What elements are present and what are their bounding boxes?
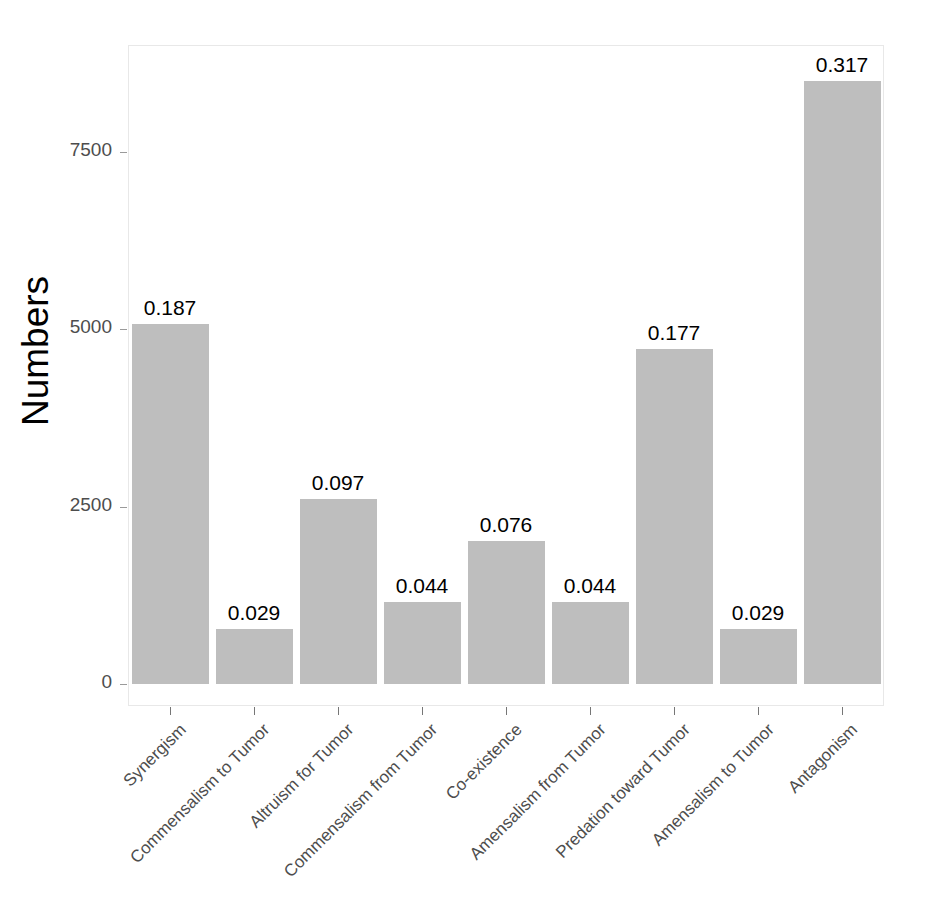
bar — [804, 81, 881, 684]
bar-value-label: 0.076 — [480, 513, 533, 537]
bar-value-label: 0.044 — [396, 574, 449, 598]
y-axis-tick-mark — [120, 152, 127, 153]
y-axis-tick-mark — [120, 507, 127, 508]
x-axis-tick-label: Antagonism — [785, 720, 863, 798]
bar — [132, 324, 209, 684]
bar-value-label: 0.097 — [312, 471, 365, 495]
x-axis-tick-label: Amensalism from Tumor — [466, 720, 610, 864]
bar-value-label: 0.029 — [228, 601, 281, 625]
bar-value-label: 0.029 — [732, 601, 785, 625]
x-axis-tick-label: Co-existence — [442, 720, 526, 804]
x-axis-tick-mark — [338, 707, 339, 715]
y-axis-tick-mark — [120, 329, 127, 330]
y-axis-tick-label: 5000 — [70, 316, 112, 338]
x-axis-tick-mark — [422, 707, 423, 715]
bar — [636, 349, 713, 684]
x-axis-tick-label: Commensalism to Tumor — [126, 720, 274, 868]
bars-layer: 0.1870.0290.0970.0440.0760.0440.1770.029… — [128, 45, 884, 706]
bar — [720, 629, 797, 684]
x-axis-tick-label: Synergism — [119, 720, 190, 791]
x-axis-tick-mark — [506, 707, 507, 715]
bar-value-label: 0.317 — [816, 53, 869, 77]
x-axis-tick-mark — [758, 707, 759, 715]
x-axis-tick-mark — [170, 707, 171, 715]
bar — [216, 629, 293, 684]
y-axis-tick-label: 2500 — [70, 494, 112, 516]
bar-value-label: 0.044 — [564, 574, 617, 598]
x-axis-tick-label: Commensalism from Tumor — [280, 720, 442, 882]
y-axis-tick-label: 7500 — [70, 139, 112, 161]
bar-value-label: 0.177 — [648, 321, 701, 345]
bar — [468, 541, 545, 684]
bar-chart-figure: Numbers 0250050007500 0.1870.0290.0970.0… — [0, 0, 930, 924]
y-axis-tick-mark — [120, 684, 127, 685]
x-axis-tick-mark — [674, 707, 675, 715]
x-axis-tick-mark — [842, 707, 843, 715]
bar — [552, 602, 629, 684]
bar-value-label: 0.187 — [144, 296, 197, 320]
y-axis-tick-labels: 0250050007500 — [0, 0, 112, 924]
y-axis-tick-label: 0 — [101, 671, 112, 693]
x-axis-tick-mark — [590, 707, 591, 715]
x-axis-tick-mark — [254, 707, 255, 715]
bar — [300, 499, 377, 684]
bar — [384, 602, 461, 684]
